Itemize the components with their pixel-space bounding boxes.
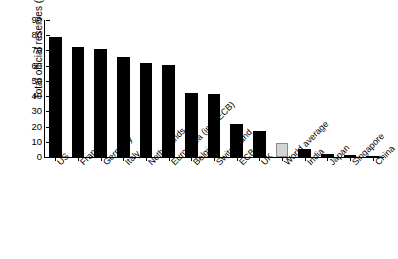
y-axis-tick: 10 (6, 142, 50, 143)
y-axis-tick-mark (46, 157, 50, 158)
y-axis-tick: 20 (6, 127, 50, 128)
y-axis-tick-label: 30 (12, 105, 42, 116)
bar-france (72, 47, 84, 157)
y-axis-tick-mark (46, 20, 50, 21)
y-axis-tick-label: 20 (12, 121, 42, 132)
y-axis-tick: 30 (6, 111, 50, 112)
y-axis-tick: 80 (6, 35, 50, 36)
bar-netherlands (140, 63, 152, 157)
bar-us (49, 37, 61, 157)
y-axis-tick: 60 (6, 66, 50, 67)
y-axis-tick-label: 50 (12, 75, 42, 86)
y-axis-tick-label: 90 (12, 14, 42, 25)
y-axis-tick: 70 (6, 50, 50, 51)
y-axis-tick-label: 60 (12, 60, 42, 71)
y-axis-tick-label: 0 (12, 151, 42, 162)
y-axis-tick: 40 (6, 96, 50, 97)
x-axis-labels: USFranceGermanyItalyNetherlandsEuro Area… (44, 160, 398, 259)
y-axis-tick-label: 40 (12, 90, 42, 101)
y-axis-tick: 90 (6, 20, 50, 21)
y-axis-line (44, 20, 45, 157)
y-axis-tick: 50 (6, 81, 50, 82)
y-axis-tick-label: 70 (12, 44, 42, 55)
y-axis-tick-label: 10 (12, 136, 42, 147)
y-axis-tick-label: 80 (12, 29, 42, 40)
bar-chart-figure: Total official reserves (%) 010203040506… (0, 0, 398, 259)
y-axis-tick: 0 (6, 157, 50, 158)
